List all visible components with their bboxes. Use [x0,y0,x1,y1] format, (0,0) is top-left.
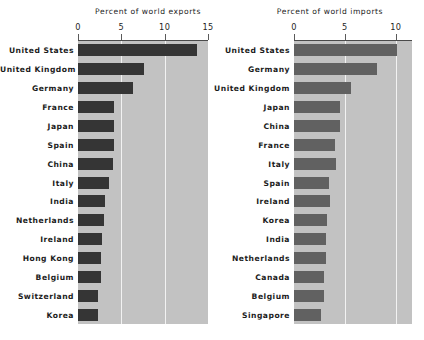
x-tick-label-exports-1: 5 [119,22,125,32]
bar-exports-13 [78,290,98,302]
x-tick-label-imports-2: 10 [390,22,401,32]
bar-imports-2 [294,82,351,94]
bar-exports-5 [78,139,114,151]
category-label-exports-11: Hong Kong [0,253,74,262]
chart-panel-exports: Percent of world exports 051015 United S… [0,0,212,340]
axis-title-imports: Percent of world imports [270,7,390,16]
bar-imports-7 [294,177,329,189]
bar-imports-8 [294,195,330,207]
category-label-imports-10: India [212,235,290,244]
bar-imports-3 [294,101,340,113]
bar-exports-9 [78,214,104,226]
category-label-imports-13: Belgium [212,291,290,300]
category-label-exports-13: Switzerland [0,291,74,300]
plot-area-imports [294,41,412,324]
category-label-exports-12: Belgium [0,272,74,281]
category-label-imports-9: Korea [212,216,290,225]
category-label-exports-9: Netherlands [0,216,74,225]
category-label-imports-0: United States [212,46,290,55]
chart-panel-imports: Percent of world imports 0510 United Sta… [212,0,424,340]
category-label-imports-4: China [212,121,290,130]
bar-imports-0 [294,44,397,56]
bar-exports-8 [78,195,105,207]
category-label-imports-8: Ireland [212,197,290,206]
category-label-exports-0: United States [0,46,74,55]
category-label-exports-5: Spain [0,140,74,149]
bar-imports-1 [294,63,377,75]
category-label-exports-7: Italy [0,178,74,187]
category-label-imports-7: Spain [212,178,290,187]
category-label-exports-6: China [0,159,74,168]
plot-area-exports [78,41,208,324]
bar-exports-14 [78,309,98,321]
bar-exports-2 [78,82,133,94]
bar-exports-4 [78,120,114,132]
x-tick-label-imports-0: 0 [291,22,297,32]
bar-imports-4 [294,120,340,132]
category-label-exports-10: Ireland [0,235,74,244]
bar-exports-10 [78,233,102,245]
bar-exports-1 [78,63,144,75]
gridline-exports-2 [165,41,166,324]
bar-exports-0 [78,44,197,56]
bar-exports-12 [78,271,101,283]
category-label-imports-5: France [212,140,290,149]
bar-exports-6 [78,158,113,170]
category-label-imports-6: Italy [212,159,290,168]
bar-imports-14 [294,309,321,321]
bar-imports-10 [294,233,326,245]
category-label-imports-1: Germany [212,65,290,74]
category-label-imports-2: United Kingdom [212,84,290,93]
x-tick-label-exports-0: 0 [75,22,81,32]
axis-title-exports: Percent of world exports [88,7,208,16]
category-label-exports-1: United Kingdom [0,65,74,74]
x-tick-label-exports-2: 10 [159,22,170,32]
category-label-exports-14: Korea [0,310,74,319]
gridline-imports-2 [396,41,397,324]
bar-imports-5 [294,139,335,151]
figure-canvas: Percent of world exports 051015 United S… [0,0,424,340]
bar-imports-12 [294,271,324,283]
bar-exports-3 [78,101,114,113]
category-label-imports-14: Singapore [212,310,290,319]
bar-exports-11 [78,252,101,264]
category-label-imports-11: Netherlands [212,253,290,262]
bar-imports-13 [294,290,324,302]
category-label-imports-3: Japan [212,103,290,112]
category-label-exports-4: Japan [0,121,74,130]
category-label-exports-3: France [0,103,74,112]
bar-imports-11 [294,252,326,264]
x-tick-mark-exports-3 [208,34,209,40]
category-label-exports-8: India [0,197,74,206]
x-tick-label-imports-1: 5 [342,22,348,32]
category-label-imports-12: Canada [212,272,290,281]
bar-exports-7 [78,177,109,189]
category-label-exports-2: Germany [0,84,74,93]
bar-imports-6 [294,158,336,170]
bar-imports-9 [294,214,327,226]
